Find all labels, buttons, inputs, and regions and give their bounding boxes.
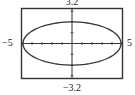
plot-area bbox=[0, 0, 135, 95]
axes bbox=[22, 9, 122, 78]
